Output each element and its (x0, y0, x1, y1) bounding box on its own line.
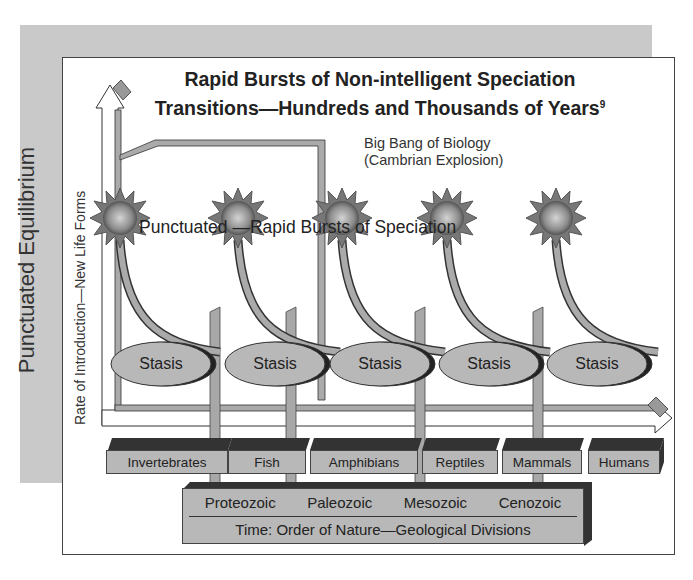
y-axis-label: Rate of Introduction—New Life Forms (72, 191, 88, 425)
era-cenozoic: Cenozoic (499, 489, 562, 516)
era-proteozoic: Proteozoic (205, 489, 276, 516)
burst-icon (526, 188, 586, 248)
era-mesozoic: Mesozoic (404, 489, 467, 516)
era-paleozoic: Paleozoic (307, 489, 372, 516)
stasis-label: Stasis (440, 344, 538, 384)
eras-caption: Time: Order of Nature—Geological Divisio… (183, 517, 583, 543)
big-bang-label: Big Bang of Biology (Cambrian Explosion) (364, 135, 503, 169)
x-axis-arrow (102, 397, 672, 433)
burst-label: Punctuated —Rapid Bursts of Speciation (139, 217, 456, 238)
group-mammals: Mammals (502, 450, 582, 474)
era-row: Proteozoic Paleozoic Mesozoic Cenozoic (189, 489, 577, 517)
geological-eras-box: Proteozoic Paleozoic Mesozoic Cenozoic T… (182, 488, 584, 544)
group-amphibians: Amphibians (310, 450, 418, 474)
stasis-label: Stasis (331, 344, 429, 384)
group-humans: Humans (588, 450, 660, 474)
transition-curves (120, 240, 658, 352)
stasis-label: Stasis (112, 344, 210, 384)
group-invertebrates: Invertebrates (106, 450, 228, 474)
group-reptiles: Reptiles (422, 450, 498, 474)
group-fish: Fish (228, 450, 306, 474)
stasis-label: Stasis (226, 344, 324, 384)
stasis-label: Stasis (548, 344, 646, 384)
